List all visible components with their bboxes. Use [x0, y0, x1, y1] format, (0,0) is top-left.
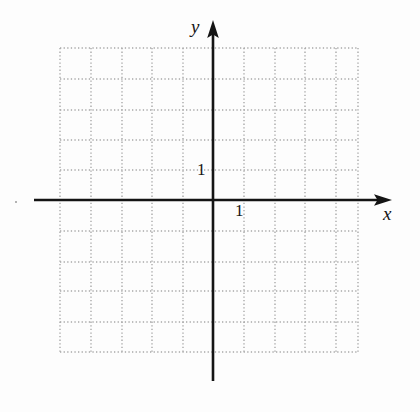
y-axis-tick-label-1: 1: [197, 161, 206, 178]
y-axis-label: y: [191, 17, 199, 36]
graph-figure: y x 1 1: [0, 0, 420, 412]
x-axis-tick-label-1: 1: [235, 202, 244, 219]
x-axis-label: x: [383, 204, 391, 223]
coordinate-plane-svg: [0, 0, 420, 412]
scan-artifact-speck: [15, 201, 17, 203]
